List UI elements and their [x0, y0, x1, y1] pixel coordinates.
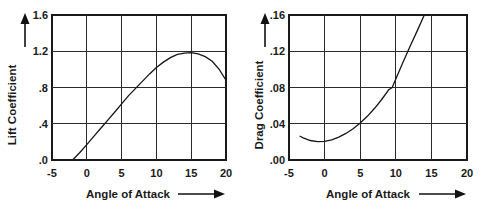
drag-y-tick-labels: .16 .12 .08 .04 .00: [270, 9, 286, 166]
drag-ytick-0_12: .12: [270, 45, 285, 57]
lift-xtick-0: 0: [84, 167, 90, 179]
drag-xtick-5: 5: [357, 167, 363, 179]
drag-horizontal-gridlines: [289, 51, 467, 124]
lift-xtick-minus5: -5: [47, 167, 57, 179]
drag-curve: [300, 15, 425, 142]
lift-ytick-0_4: .4: [39, 118, 49, 130]
lift-curve: [73, 53, 226, 160]
aerodynamic-coefficients-figure: 1.6 1.2 .8 .4 .0 -5 0 5 10 15 20 Lift Co…: [0, 0, 494, 210]
lift-y-tick-labels: 1.6 1.2 .8 .4 .0: [33, 9, 49, 166]
drag-ytick-0_08: .08: [270, 82, 285, 94]
lift-x-tick-labels: -5 0 5 10 15 20: [47, 167, 232, 179]
lift-ytick-1_6: 1.6: [33, 9, 48, 21]
lift-y-axis-arrow-icon: [21, 13, 30, 47]
drag-ytick-0_00: .00: [270, 154, 285, 166]
drag-xtick-10: 10: [390, 167, 402, 179]
lift-xtick-5: 5: [119, 167, 125, 179]
drag-x-axis-arrow-icon: [419, 190, 466, 199]
drag-xtick-minus5: -5: [284, 167, 294, 179]
drag-y-axis-title: Drag Coefficient: [253, 60, 265, 149]
drag-coefficient-panel: .16 .12 .08 .04 .00 -5 0 5 10 15 20 Drag…: [247, 0, 494, 210]
drag-y-axis-arrow-icon: [261, 13, 270, 47]
lift-ytick-0_8: .8: [39, 82, 48, 94]
drag-xtick-15: 15: [425, 167, 437, 179]
lift-x-axis-title: Angle of Attack: [86, 188, 171, 200]
lift-x-axis-arrow-icon: [178, 190, 225, 199]
lift-ytick-0_0: .0: [39, 154, 48, 166]
drag-ytick-0_16: .16: [270, 9, 285, 21]
drag-x-axis-title: Angle of Attack: [326, 188, 411, 200]
drag-x-tick-labels: -5 0 5 10 15 20: [284, 167, 473, 179]
lift-xtick-10: 10: [150, 167, 162, 179]
drag-xtick-0: 0: [322, 167, 328, 179]
lift-horizontal-gridlines: [52, 51, 226, 124]
lift-xtick-15: 15: [185, 167, 197, 179]
drag-ytick-0_04: .04: [270, 118, 286, 130]
lift-y-axis-title: Lift Coefficient: [6, 65, 18, 146]
drag-xtick-20: 20: [461, 167, 473, 179]
lift-coefficient-panel: 1.6 1.2 .8 .4 .0 -5 0 5 10 15 20 Lift Co…: [0, 0, 247, 210]
lift-xtick-20: 20: [220, 167, 232, 179]
lift-ytick-1_2: 1.2: [33, 45, 48, 57]
